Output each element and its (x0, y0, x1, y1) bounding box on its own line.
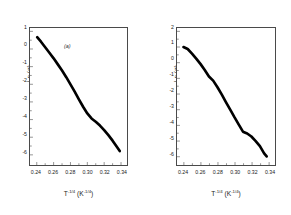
x-axis-title-exp1: -1/4 (215, 189, 222, 194)
x-axis-title-unit: (K (75, 190, 83, 197)
x-axis-title-close: ) (91, 190, 93, 197)
y-tick-label: -6 (156, 152, 174, 157)
x-axis-title-exp2: -1/4 (231, 189, 238, 194)
left-plot-frame (29, 27, 128, 166)
right-y-tick-labels: 2 1 0 -1 -2 -3 -4 -5 -6 (155, 27, 174, 166)
y-tick-label: 1 (156, 40, 174, 45)
left-plot-svg (30, 28, 127, 165)
y-tick-label: -4 (9, 114, 27, 119)
y-tick-label: 0 (156, 56, 174, 61)
y-tick-label: 0 (9, 42, 27, 47)
x-tick-label: 0.34 (110, 170, 134, 175)
right-x-ticks (184, 162, 269, 165)
left-y-ticks (30, 31, 33, 154)
right-x-tick-labels: 0.24 0.26 0.28 0.30 0.32 0.34 (176, 170, 276, 180)
right-data-curve (183, 47, 266, 156)
y-tick-label: -1 (9, 60, 27, 65)
right-y-ticks (177, 31, 180, 156)
figure-container: Ln (σ) 1 0 -1 -2 -3 -4 -5 -6 (0, 0, 291, 215)
right-x-axis-title: T-1/4 (K-1/4) (176, 189, 276, 197)
y-tick-label: 2 (156, 25, 174, 30)
y-tick-label: -2 (156, 88, 174, 93)
x-axis-title-unit: (K (223, 190, 231, 197)
x-axis-title-exp2: -1/4 (84, 189, 91, 194)
left-panel: Ln (σ) 1 0 -1 -2 -3 -4 -5 -6 (0, 0, 145, 215)
left-panel-annotation: (a) (64, 43, 71, 49)
y-tick-label: 1 (9, 25, 27, 30)
left-x-ticks (37, 162, 121, 165)
y-tick-label: -5 (156, 136, 174, 141)
y-tick-label: -6 (9, 150, 27, 155)
y-tick-label: -4 (156, 120, 174, 125)
y-tick-label: -5 (9, 132, 27, 137)
left-data-curve (37, 37, 120, 151)
left-x-tick-labels: 0.24 0.26 0.28 0.30 0.32 0.34 (29, 170, 128, 180)
y-tick-label: -1 (156, 72, 174, 77)
y-tick-label: -3 (9, 96, 27, 101)
x-axis-title-close: ) (239, 190, 241, 197)
y-tick-label: -3 (156, 104, 174, 109)
x-tick-label: 0.34 (258, 170, 282, 175)
left-y-tick-labels: 1 0 -1 -2 -3 -4 -5 -6 (8, 27, 27, 166)
right-plot-frame (176, 27, 276, 166)
right-plot-svg (177, 28, 275, 165)
right-panel: Ln (σ) 2 1 0 -1 -2 -3 -4 -5 -6 (145, 0, 291, 215)
y-tick-label: -2 (9, 78, 27, 83)
left-x-axis-title: T-1/4 (K-1/4) (29, 189, 128, 197)
